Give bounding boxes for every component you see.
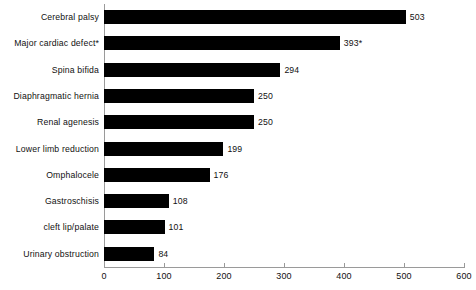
tick-label: 0: [101, 271, 106, 282]
x-axis-ticks: 0100200300400500600: [0, 0, 476, 290]
tick-label: 300: [276, 271, 292, 282]
tick-mark: [284, 263, 285, 267]
tick-mark: [344, 263, 345, 267]
plot-area: Cerebral palsy503Major cardiac defect*39…: [0, 0, 476, 290]
horizontal-bar-chart: Cerebral palsy503Major cardiac defect*39…: [0, 0, 476, 290]
tick-mark: [404, 263, 405, 267]
tick-label: 500: [396, 271, 412, 282]
tick-mark: [164, 263, 165, 267]
tick-mark: [104, 263, 105, 267]
tick-label: 100: [156, 271, 172, 282]
tick-label: 200: [216, 271, 232, 282]
tick-label: 400: [336, 271, 352, 282]
tick-label: 600: [456, 271, 472, 282]
tick-mark: [464, 263, 465, 267]
tick-mark: [224, 263, 225, 267]
